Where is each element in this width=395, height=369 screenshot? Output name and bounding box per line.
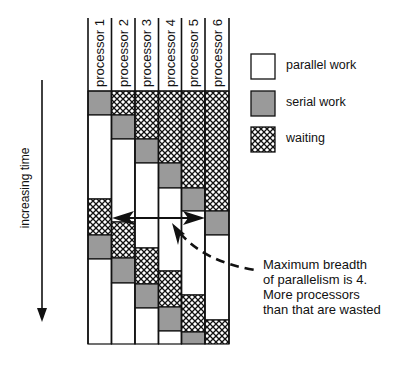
segment-parallel [135, 163, 159, 248]
segment-parallel [88, 259, 112, 344]
legend-label-parallel: parallel work [286, 58, 356, 72]
segment-serial [135, 139, 159, 163]
legend-swatch-waiting [251, 127, 275, 152]
segment-parallel [159, 331, 182, 344]
segment-serial [88, 91, 112, 115]
segment-waiting [159, 271, 182, 307]
segment-parallel [112, 139, 136, 222]
annotation-text: Maximum breadth of parallelism is 4. Mor… [263, 257, 381, 317]
time-axis-label: increasing time [18, 148, 32, 229]
segment-waiting [135, 248, 159, 284]
segment-serial [205, 211, 229, 235]
processor-header-1: processor 1 [92, 19, 107, 87]
segment-parallel [88, 115, 112, 199]
segment-parallel [135, 308, 159, 344]
segment-serial [112, 258, 136, 283]
segment-waiting [88, 199, 112, 235]
segment-serial [159, 163, 182, 188]
processor-header-3: processor 3 [139, 19, 154, 87]
segment-serial [159, 307, 182, 331]
processor-header-6: processor 6 [210, 19, 225, 87]
segment-serial [112, 115, 136, 139]
segment-serial [88, 235, 112, 259]
segment-parallel [205, 235, 229, 320]
segment-serial [182, 188, 206, 211]
annotation-line-3: More processors [263, 287, 381, 302]
legend-swatch-serial [251, 91, 275, 116]
processor-header-2: processor 2 [116, 19, 131, 87]
time-axis [37, 80, 47, 322]
segment-waiting [205, 320, 229, 344]
segment-waiting [112, 222, 136, 258]
processor-header-5: processor 5 [186, 19, 201, 87]
legend-swatch-parallel [251, 54, 275, 79]
segment-waiting [182, 295, 206, 332]
segment-parallel [112, 283, 136, 344]
legend [251, 54, 275, 152]
annotation-line-4: than that are wasted [263, 302, 381, 317]
segment-waiting [159, 91, 182, 163]
segment-serial [182, 332, 206, 344]
legend-label-waiting: waiting [286, 131, 325, 145]
segment-waiting [112, 91, 136, 115]
annotation-line-1: Maximum breadth [263, 257, 381, 272]
processor-header-4: processor 4 [163, 19, 178, 87]
time-arrow-head-icon [37, 308, 47, 322]
segment-waiting [135, 91, 159, 139]
annotation-line-2: of parallelism is 4. [263, 272, 381, 287]
segment-serial [135, 284, 159, 308]
segment-waiting [205, 91, 229, 211]
legend-label-serial: serial work [286, 95, 346, 109]
segment-waiting [182, 91, 206, 188]
